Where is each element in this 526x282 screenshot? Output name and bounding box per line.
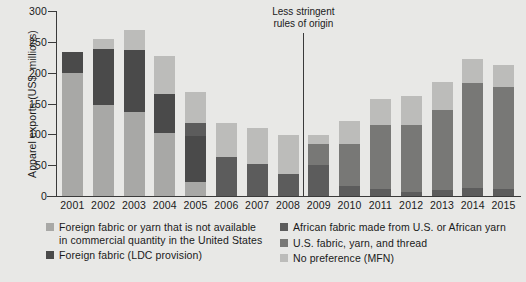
bar-segment [370,189,391,196]
legend-item[interactable]: Foreign fabric (LDC provision) [46,249,282,262]
chart-legend: Foreign fabric or yarn that is not avail… [0,221,526,282]
bar-segment [308,144,329,165]
bar-segment [370,99,391,125]
x-tick-label: 2006 [211,199,241,211]
bar-segment [62,52,83,72]
bar-segment [93,49,114,105]
legend-label: African fabric made from U.S. or African… [293,221,506,234]
x-tick-label: 2002 [88,199,118,211]
bar-column[interactable] [185,92,206,196]
bar-segment [93,105,114,196]
y-tick-mark [48,73,56,74]
bar-segment [401,96,422,125]
bar-column[interactable] [247,128,268,196]
legend-swatch-icon [280,254,288,262]
x-tick-label: 2007 [242,199,272,211]
bar-segment [216,157,237,196]
bar-segment [462,188,483,196]
bar-segment [247,164,268,196]
bar-column[interactable] [62,52,83,196]
bar-segment [124,112,145,196]
x-tick-label: 2001 [57,199,87,211]
y-tick-label: 50 [3,159,47,171]
bar-segment [432,82,453,110]
bar-segment [462,59,483,83]
bar-segment [401,192,422,196]
bar-segment [93,39,114,49]
bar-column[interactable] [308,135,329,196]
bar-column[interactable] [278,135,299,196]
policy-change-divider [303,33,304,196]
y-tick-mark [48,42,56,43]
bar-segment [185,136,206,183]
annotation-rules-of-origin: Less stringent rules of origin [248,6,358,30]
bar-segment [339,121,360,143]
bar-segment [308,135,329,144]
bar-segment [462,83,483,188]
y-tick-label: 250 [3,36,47,48]
legend-item[interactable]: U.S. fabric, yarn, and thread [280,237,526,250]
bar-segment [432,190,453,196]
legend-column-left: Foreign fabric or yarn that is not avail… [46,221,282,265]
x-tick-label: 2005 [181,199,211,211]
bar-segment [247,128,268,164]
x-tick-label: 2012 [396,199,426,211]
legend-swatch-icon [46,251,54,259]
legend-item[interactable]: African fabric made from U.S. or African… [280,221,526,234]
bar-segment [493,87,514,189]
bar-segment [308,165,329,196]
bar-column[interactable] [370,99,391,196]
legend-item[interactable]: No preference (MFN) [280,252,526,265]
legend-swatch-icon [46,223,54,231]
legend-label: U.S. fabric, yarn, and thread [293,237,427,250]
bar-segment [401,125,422,192]
y-tick-mark [48,165,56,166]
x-tick-label: 2013 [427,199,457,211]
x-tick-label: 2015 [489,199,519,211]
bar-segment [154,56,175,94]
legend-swatch-icon [280,239,288,247]
x-tick-label: 2011 [365,199,395,211]
bar-segment [216,123,237,156]
x-axis-labels: 2001200220032004200520062007200820092010… [57,199,519,215]
bar-segment [185,92,206,123]
bar-segment [493,189,514,196]
legend-label-line2: in commercial quantity in the United Sta… [59,234,262,247]
bar-segment [185,123,206,135]
y-tick-label: 200 [3,67,47,79]
bar-column[interactable] [462,59,483,196]
bar-segment [124,50,145,112]
bar-column[interactable] [216,123,237,196]
y-tick-label: 150 [3,98,47,110]
bar-segment [432,110,453,190]
bar-segment [339,186,360,196]
x-tick-label: 2009 [304,199,334,211]
bar-segment [124,30,145,50]
bar-segment [154,133,175,196]
legend-item[interactable]: Foreign fabric or yarn that is not avail… [46,221,282,246]
x-tick-label: 2003 [119,199,149,211]
bar-column[interactable] [493,65,514,196]
bar-column[interactable] [401,96,422,196]
x-tick-label: 2014 [458,199,488,211]
x-tick-label: 2004 [150,199,180,211]
y-tick-label: 300 [3,5,47,17]
bar-segment [62,73,83,196]
bar-column[interactable] [124,30,145,196]
bar-segment [278,174,299,196]
bar-column[interactable] [93,39,114,196]
bar-column[interactable] [154,56,175,196]
bar-segment [278,135,299,174]
legend-swatch-icon [280,223,288,231]
x-axis-line [47,196,521,197]
y-tick-mark [48,11,56,12]
y-tick-label: 100 [3,128,47,140]
bar-column[interactable] [339,121,360,196]
y-tick-label: 0 [3,190,47,202]
bar-segment [185,182,206,196]
bar-segment [370,125,391,189]
bar-column[interactable] [432,82,453,196]
legend-label: Foreign fabric (LDC provision) [59,249,202,262]
chart-root: Apparel exports (US$, millions) 05010015… [0,0,526,282]
bar-series-area [57,11,519,196]
